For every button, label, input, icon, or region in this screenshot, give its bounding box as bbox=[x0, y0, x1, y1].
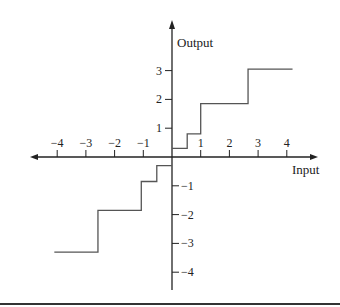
y-tick-label: −1 bbox=[181, 179, 194, 193]
y-tick-label: 1 bbox=[156, 121, 162, 135]
x-tick-label: −3 bbox=[80, 136, 93, 150]
x-tick-label: 3 bbox=[255, 136, 261, 150]
x-tick-label: −4 bbox=[51, 136, 64, 150]
x-tick-label: 2 bbox=[226, 136, 232, 150]
y-tick-label: 2 bbox=[156, 92, 162, 106]
x-axis-label: Input bbox=[292, 162, 320, 177]
step-line bbox=[54, 166, 172, 252]
x-tick-label: 4 bbox=[284, 136, 290, 150]
step-series bbox=[54, 69, 292, 252]
y-tick-label: −2 bbox=[181, 208, 194, 222]
axes bbox=[30, 20, 318, 290]
y-tick-label: −4 bbox=[181, 265, 194, 279]
bottom-rule bbox=[0, 303, 340, 305]
x-axis-arrow-left-icon bbox=[30, 154, 38, 160]
ticks: −4−3−2−11234321−1−2−3−4 bbox=[51, 64, 290, 280]
x-axis-arrow-right-icon bbox=[310, 154, 318, 160]
y-axis-label: Output bbox=[177, 35, 214, 50]
y-tick-label: 3 bbox=[156, 64, 162, 78]
x-tick-label: −1 bbox=[137, 136, 150, 150]
x-tick-label: −2 bbox=[108, 136, 121, 150]
step-function-chart: −4−3−2−11234321−1−2−3−4 Input Output bbox=[0, 0, 340, 307]
y-tick-label: −3 bbox=[181, 236, 194, 250]
y-axis-arrow-up-icon bbox=[169, 20, 175, 29]
x-tick-label: 1 bbox=[198, 136, 204, 150]
